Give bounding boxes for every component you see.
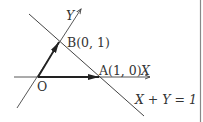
y-axis-label: Y [66, 8, 76, 23]
point-b-label: B(0, 1) [67, 35, 110, 50]
line-equation-label: X + Y = 1 [134, 92, 197, 107]
x-axis-label: X [140, 63, 151, 78]
diagram-canvas: Y B(0, 1) A(1, 0) X O X + Y = 1 [0, 0, 203, 122]
vector-ob [38, 42, 59, 77]
origin-label: O [37, 79, 47, 94]
point-a-label: A(1, 0) [98, 63, 142, 78]
